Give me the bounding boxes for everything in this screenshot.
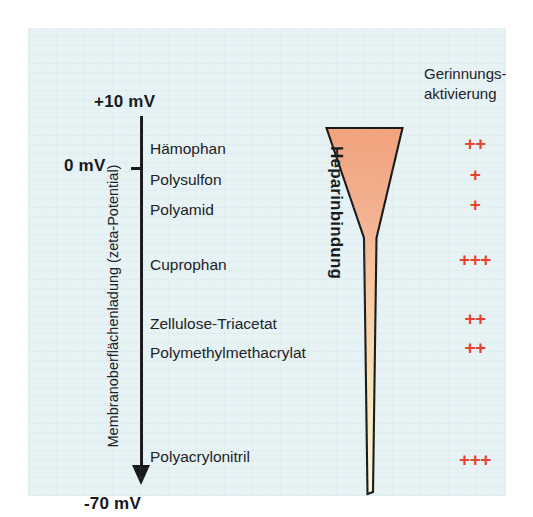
axis-caption: Membranoberflächenladung (zeta-Potential… [105,146,121,466]
coagulation-header-line2: aktivierung [424,84,507,104]
activation-mark: ++ [440,133,510,155]
figure-panel: +10 mV 0 mV -70 mV Membranoberflächenlad… [28,28,506,496]
activation-mark: +++ [440,449,510,471]
membrane-label: Hämophan [150,140,226,158]
membrane-label: Polyamid [150,201,214,219]
membrane-label: Zellulose-Triacetat [150,315,277,333]
coagulation-header: Gerinnungs- aktivierung [424,64,507,105]
axis-arrow-icon [132,465,150,485]
wedge-caption: Heparinbindung [326,146,346,376]
axis-value-bottom: -70 mV [84,494,141,514]
membrane-label: Polyacrylonitril [150,448,250,466]
activation-mark: ++ [440,308,510,330]
activation-mark: ++ [440,337,510,359]
activation-mark: +++ [440,249,510,271]
axis-tick-zero [131,167,141,170]
membrane-label: Cuprophan [150,256,227,274]
axis-value-top: +10 mV [94,92,155,112]
axis-value-zero: 0 mV [64,156,105,176]
activation-mark: + [440,164,510,186]
coagulation-header-line1: Gerinnungs- [424,64,507,84]
figure-root: +10 mV 0 mV -70 mV Membranoberflächenlad… [0,0,533,517]
membrane-label: Polymethylmethacrylat [150,344,306,362]
activation-mark: + [440,194,510,216]
membrane-label: Polysulfon [150,171,222,189]
